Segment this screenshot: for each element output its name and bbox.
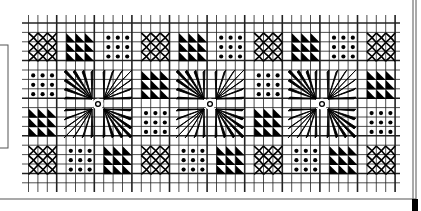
dot-motif [257, 73, 280, 96]
triangle-motif [104, 146, 132, 174]
cross-lattice-motif [141, 146, 169, 174]
dot-motif [144, 111, 167, 134]
dot-motif [370, 111, 393, 134]
dot-motif [182, 149, 205, 172]
triangle-motif [292, 33, 320, 61]
triangle-motif [254, 108, 282, 136]
cross-lattice-motif [29, 33, 57, 61]
cross-lattice-motif [254, 146, 282, 174]
triangle-motif [329, 146, 357, 174]
corner-mark [412, 199, 418, 211]
cross-lattice-motif [254, 33, 282, 61]
dot-motif [294, 149, 317, 172]
dot-motif [219, 36, 242, 59]
left-frame-box [0, 45, 8, 148]
dot-motif [106, 36, 129, 59]
cross-lattice-motif [367, 146, 395, 174]
triangle-motif [29, 108, 57, 136]
cross-lattice-motif [29, 146, 57, 174]
blackwork-chart [0, 0, 421, 211]
triangle-motif [141, 71, 169, 99]
cross-lattice-motif [141, 33, 169, 61]
triangle-motif [217, 146, 245, 174]
cross-lattice-motif [367, 33, 395, 61]
star-motif [288, 70, 356, 138]
star-motif [64, 70, 132, 138]
dot-motif [332, 36, 355, 59]
triangle-motif [66, 33, 94, 61]
star-motifs [64, 70, 356, 138]
triangle-motif [367, 71, 395, 99]
dot-motif [31, 73, 54, 96]
dot-motif [69, 149, 92, 172]
triangle-motif [179, 33, 207, 61]
star-motif [176, 70, 244, 138]
